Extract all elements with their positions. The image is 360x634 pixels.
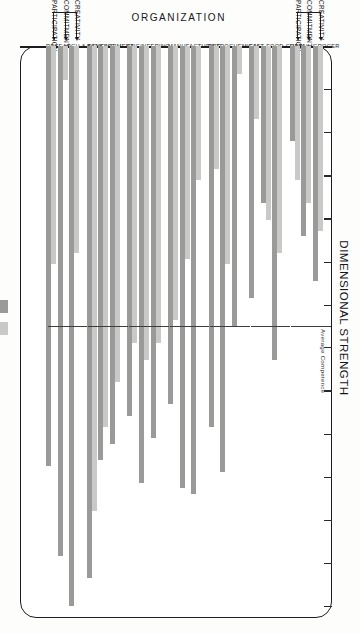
chart-page: DIMENSIONAL STRENGTH RETAIL GROCERFAST F… <box>0 0 360 634</box>
axis-tick <box>324 218 332 219</box>
bar-low-performing <box>277 46 282 253</box>
axis-tick <box>324 606 332 607</box>
bar-low-performing <box>115 46 120 382</box>
axis-title-organization: ORGANIZATION <box>132 12 222 23</box>
bar-low-performing <box>266 46 271 220</box>
bar-low-performing <box>103 46 108 427</box>
bar-high-performing <box>272 46 277 360</box>
bar-low-performing <box>185 46 190 259</box>
bar-low-performing <box>144 46 149 360</box>
axis-tick <box>324 434 332 435</box>
bar-low-performing <box>196 46 201 180</box>
bar-high-performing <box>98 46 103 460</box>
average-competence-line <box>210 326 250 327</box>
average-competence-line <box>88 326 128 327</box>
bar-high-performing <box>58 46 63 556</box>
chart-title: DIMENSIONAL STRENGTH <box>338 240 350 395</box>
average-competence-line <box>170 326 210 327</box>
dimension-label: COMMITMENT <box>306 0 313 6</box>
axis-tick <box>324 477 332 478</box>
bar-high-performing <box>191 46 196 494</box>
bar-high-performing <box>220 46 225 472</box>
dimension-label: COMMITMENT <box>63 0 70 6</box>
bar-low-performing <box>74 46 79 253</box>
axis-tick <box>324 262 332 263</box>
bar-low-performing <box>132 46 137 343</box>
dimension-label: CREATIVITY <box>74 0 81 6</box>
bar-high-performing <box>232 46 237 326</box>
legend-swatch <box>0 300 8 313</box>
axis-tick <box>324 520 332 521</box>
dimension-label: CREATIVITY <box>318 0 325 6</box>
bar-low-performing <box>63 46 68 80</box>
bar-low-performing <box>156 46 161 343</box>
bar-low-performing <box>225 46 230 264</box>
average-competence-line <box>291 326 331 327</box>
bar-high-performing <box>168 46 173 404</box>
bar-high-performing <box>209 46 214 427</box>
bar-low-performing <box>295 46 300 180</box>
bar-high-performing <box>139 46 144 483</box>
bar-low-performing <box>306 46 311 203</box>
axis-tick <box>324 563 332 564</box>
bar-high-performing <box>46 46 51 466</box>
bar-high-performing <box>301 46 306 236</box>
dimension-label: PARTICIPATION <box>295 0 302 6</box>
bar-low-performing <box>237 46 242 74</box>
bar-low-performing <box>92 46 97 511</box>
bar-high-performing <box>313 46 318 281</box>
bar-high-performing <box>110 46 115 444</box>
axis-tick <box>324 132 332 133</box>
bar-high-performing <box>127 46 132 416</box>
bar-high-performing <box>261 46 266 203</box>
bar-high-performing <box>87 46 92 578</box>
legend-swatch <box>0 322 8 335</box>
average-competence-label: Average Competence <box>320 329 327 393</box>
average-competence-line <box>129 326 169 327</box>
bar-high-performing <box>290 46 295 141</box>
bar-low-performing <box>254 46 259 119</box>
average-competence-line <box>251 326 291 327</box>
bar-low-performing <box>214 46 219 169</box>
bar-high-performing <box>249 46 254 298</box>
bar-low-performing <box>318 46 323 231</box>
axis-tick <box>324 175 332 176</box>
figure: DIMENSIONAL STRENGTH RETAIL GROCERFAST F… <box>0 0 360 634</box>
dimension-label: PARTICIPATION <box>51 0 58 6</box>
bar-low-performing <box>173 46 178 320</box>
axis-tick <box>324 305 332 306</box>
axis-tick <box>324 89 332 90</box>
bar-high-performing <box>151 46 156 438</box>
bar-high-performing <box>180 46 185 488</box>
average-competence-line <box>48 326 88 327</box>
bar-low-performing <box>51 46 56 264</box>
